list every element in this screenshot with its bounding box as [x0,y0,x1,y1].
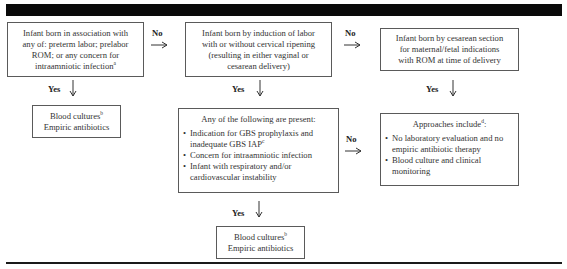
edge-label-no-2: No [345,28,356,38]
node-action-2-line-1: Blood cultures [234,232,284,242]
bottom-rule [6,262,562,264]
footnote-b: b [284,231,287,237]
edge-label-yes-2: Yes [232,84,244,94]
node-criteria-title: Any of the following are present: [183,114,334,125]
arrow-right-icon [151,41,169,49]
criteria-list: Indication for GBS prophylaxis and inade… [183,128,334,183]
approach-item-text: No laboratory evaluation and no empiric … [392,133,503,154]
footnote-b: b [100,110,103,116]
node-start-line-4: intraamniotic infection [35,61,114,71]
arrow-right-icon [344,41,362,49]
criteria-item-text: Infant with respiratory and/or cardiovas… [190,161,291,182]
node-action-2: Blood culturesb Empiric antibiotics [216,226,305,259]
approach-item: No laboratory evaluation and no empiric … [385,133,514,155]
node-approaches-title: Approaches include [413,119,482,129]
approach-item: Blood culture and clinical monitoring [385,155,514,177]
node-start-line-2: any of: preterm labor; prelabor [12,39,139,50]
node-approaches-title-wrap: Approaches included: [385,119,514,130]
node-approaches: Approaches included: No laboratory evalu… [380,113,519,186]
criteria-item-text: Indication for GBS prophylaxis and inade… [190,128,313,149]
arrow-right-icon [345,147,363,155]
edge-label-yes-3: Yes [426,84,438,94]
node-cesarean: Infant born by cesarean section for mate… [380,28,519,71]
node-action-2-line-2: Empiric antibiotics [221,243,300,254]
node-cesarean-line-2: for maternal/fetal indications [385,44,514,55]
node-action-2-line-1-wrap: Blood culturesb [221,232,300,243]
title-suffix: : [484,119,486,129]
approach-item-text: Blood culture and clinical monitoring [392,155,481,176]
criteria-item-text: Concern for intraamniotic infection [190,150,312,160]
node-action-1: Blood culturesb Empiric antibiotics [32,105,121,138]
arrow-down-icon [256,80,264,98]
footnote-c: c [262,138,264,144]
criteria-item: Concern for intraamniotic infection [183,150,334,161]
node-induction-line-1: Infant born by induction of labor [190,28,327,39]
node-start: Infant born in association with any of: … [7,22,144,77]
node-induction-line-3: (resulting in either vaginal or [190,50,327,61]
arrow-down-icon [255,201,263,219]
header-band [6,4,562,16]
edge-label-no-3: No [346,134,357,144]
node-cesarean-line-1: Infant born by cesarean section [385,33,514,44]
node-induction-line-4: cesarean delivery) [190,61,327,72]
node-action-1-line-1: Blood cultures [50,111,100,121]
arrow-down-icon [69,80,77,98]
criteria-item: Indication for GBS prophylaxis and inade… [183,128,334,150]
criteria-item: Infant with respiratory and/or cardiovas… [183,161,334,183]
node-action-1-line-1-wrap: Blood culturesb [37,111,116,122]
node-start-line-3: ROM; or any concern for [12,50,139,61]
edge-label-no-1: No [152,28,163,38]
approaches-list: No laboratory evaluation and no empiric … [385,133,514,177]
edge-label-yes-4: Yes [232,208,244,218]
node-criteria: Any of the following are present: Indica… [178,108,339,193]
footnote-a: a [114,60,116,66]
edge-label-yes-1: Yes [48,84,60,94]
node-induction: Infant born by induction of labor with o… [185,22,332,77]
node-induction-line-2: with or without cervical ripening [190,39,327,50]
node-cesarean-line-3: with ROM at time of delivery [385,55,514,66]
node-start-line-1: Infant born in association with [12,28,139,39]
node-start-line-4-wrap: intraamniotic infectiona [12,61,139,72]
node-action-1-line-2: Empiric antibiotics [37,122,116,133]
arrow-down-icon [449,80,457,98]
